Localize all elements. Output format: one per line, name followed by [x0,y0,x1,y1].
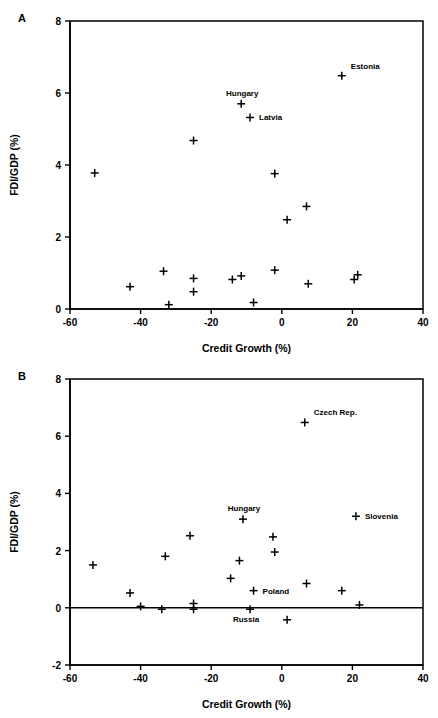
data-point [158,605,166,613]
data-point-label: Hungary [228,504,261,513]
data-point [303,202,311,210]
y-tick-label: 2 [55,546,61,557]
x-tick-label: 20 [347,317,359,328]
y-axis-title: FDI/GDP (%) [8,134,20,196]
panel-a: A -60-40-200204002468Credit Growth (%)FD… [0,0,438,358]
y-tick-label: 8 [55,16,61,27]
data-point [237,272,245,280]
data-point [338,587,346,595]
data-point-label: Russia [233,615,260,624]
data-point [269,533,277,541]
x-tick-label: -40 [133,317,148,328]
data-point [304,280,312,288]
data-point [186,532,194,540]
data-point-label: Slovenia [365,512,398,521]
y-tick-label: 6 [55,88,61,99]
data-point [227,574,235,582]
data-point [283,616,291,624]
data-point-label: Czech Rep. [314,408,357,417]
data-point-label: Latvia [259,113,283,122]
x-tick-label: -20 [204,673,219,684]
x-tick-label: -60 [63,317,78,328]
scatter-plot-b: -60-40-2002040-202468Credit Growth (%)FD… [0,358,438,718]
data-point [235,557,243,565]
x-tick-label: 20 [347,673,359,684]
y-tick-label: -2 [52,660,61,671]
data-point [190,288,198,296]
data-point [160,267,168,275]
data-point [338,72,346,80]
y-tick-label: 8 [55,374,61,385]
x-tick-label: 40 [417,317,429,328]
data-point-label: Estonia [351,62,380,71]
y-tick-label: 6 [55,431,61,442]
data-point [303,579,311,587]
data-point [190,605,198,613]
data-point [301,418,309,426]
data-point [237,100,245,108]
data-point [283,216,291,224]
x-tick-label: -60 [63,673,78,684]
data-point [271,170,279,178]
data-point [250,299,258,307]
data-point [190,274,198,282]
y-tick-label: 2 [55,232,61,243]
x-tick-label: -40 [133,673,148,684]
x-tick-label: 0 [279,317,285,328]
y-tick-label: 4 [55,488,61,499]
x-tick-label: -20 [204,317,219,328]
data-point [137,602,145,610]
scatter-plot-a: -60-40-200204002468Credit Growth (%)FDI/… [0,0,438,358]
y-tick-label: 0 [55,603,61,614]
y-tick-label: 4 [55,160,61,171]
panel-b: B -60-40-2002040-202468Credit Growth (%)… [0,358,438,718]
figure-container: A -60-40-200204002468Credit Growth (%)FD… [0,0,438,718]
data-point [246,113,254,121]
data-point [126,589,134,597]
y-tick-label: 0 [55,304,61,315]
data-point [126,283,134,291]
data-point [89,561,97,569]
x-tick-label: 0 [279,673,285,684]
data-point [246,605,254,613]
data-point-label: Poland [263,587,290,596]
x-tick-label: 40 [417,673,429,684]
data-point [250,587,258,595]
data-point [190,137,198,145]
data-point-label: Hungary [226,89,259,98]
data-point [271,548,279,556]
data-point [239,515,247,523]
data-point [165,301,173,309]
data-point [91,169,99,177]
x-axis-title: Credit Growth (%) [202,698,291,710]
data-point [271,266,279,274]
y-axis-title: FDI/GDP (%) [8,491,20,553]
data-point [228,275,236,283]
x-axis-title: Credit Growth (%) [202,342,291,354]
data-point [161,552,169,560]
data-point [352,512,360,520]
